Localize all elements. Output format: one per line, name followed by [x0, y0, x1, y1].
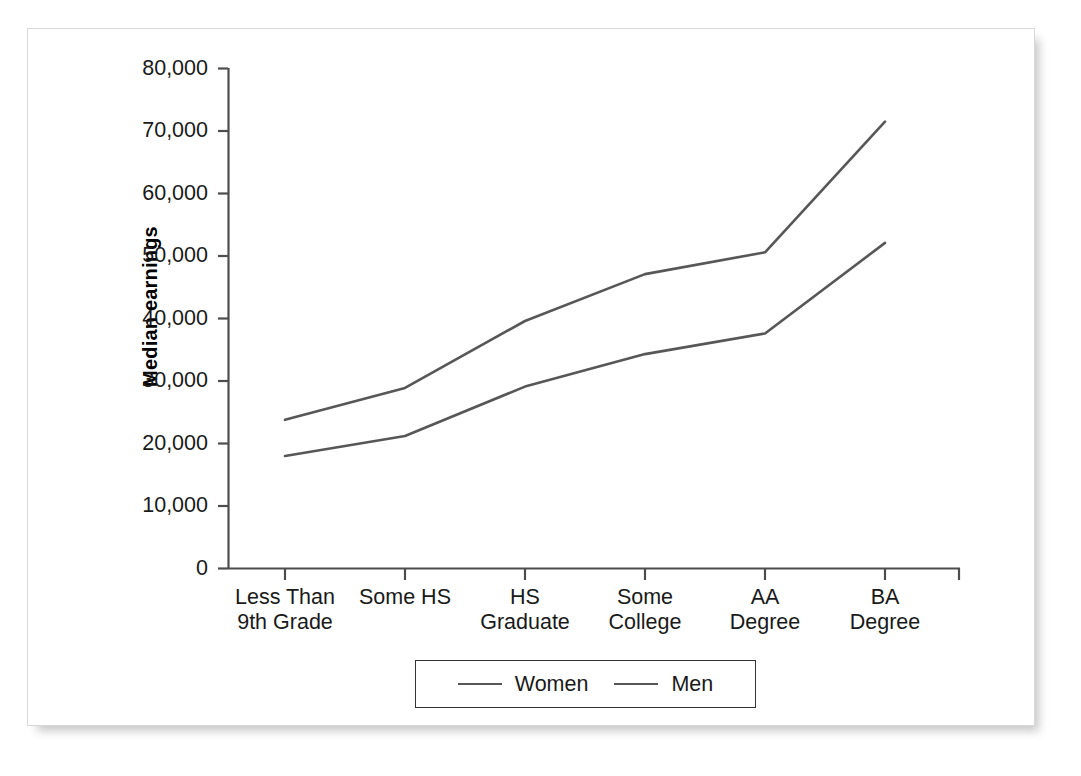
data-line-men: [285, 122, 885, 420]
legend-line-icon-men: [614, 683, 658, 685]
x-tick-label-aa-degree: AA Degree: [695, 585, 835, 635]
x-tick-label-some-college: Some College: [575, 585, 715, 635]
data-line-women: [285, 243, 885, 456]
x-tick-label-some-hs: Some HS: [335, 585, 475, 610]
y-tick-label: 0: [68, 556, 208, 581]
x-tick-label-less-than-9th-grade: Less Than 9th Grade: [215, 585, 355, 635]
y-tick-label: 40,000: [68, 306, 208, 331]
chart-legend: Women Men: [415, 660, 756, 708]
legend-label-women: Women: [515, 672, 589, 697]
legend-item-men[interactable]: Men: [614, 672, 713, 697]
y-tick-label: 50,000: [68, 243, 208, 268]
y-tick-label: 70,000: [68, 118, 208, 143]
x-tick-label-hs-graduate: HS Graduate: [455, 585, 595, 635]
y-tick-label: 30,000: [68, 368, 208, 393]
legend-line-icon-women: [458, 683, 502, 685]
y-axis-ticks: [218, 69, 228, 569]
y-tick-label: 60,000: [68, 181, 208, 206]
legend-label-men: Men: [671, 672, 713, 697]
line-chart-figure: Median earnings 80,000 70,000 60,000 50,…: [0, 0, 1081, 776]
x-tick-label-ba-degree: BA Degree: [815, 585, 955, 635]
y-tick-label: 80,000: [68, 56, 208, 81]
y-tick-label: 10,000: [68, 493, 208, 518]
y-tick-label: 20,000: [68, 431, 208, 456]
x-axis-ticks: [285, 568, 959, 580]
legend-item-women[interactable]: Women: [458, 672, 589, 697]
